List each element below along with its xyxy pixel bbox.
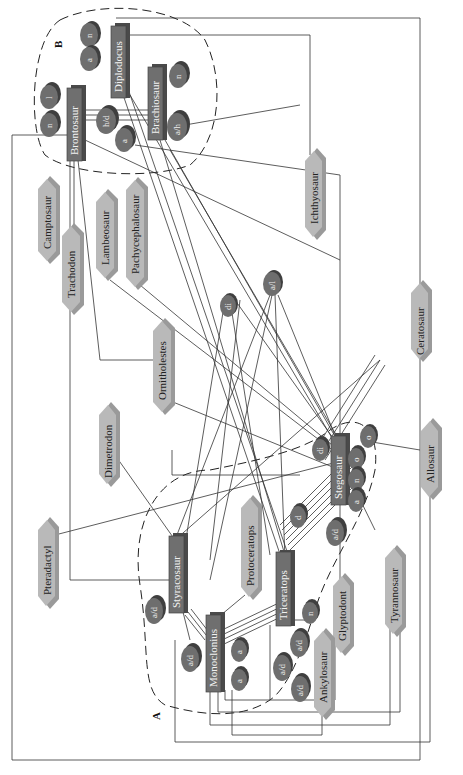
svg-text:Ankylosaur: Ankylosaur	[317, 651, 329, 703]
svg-text:a/d: a/d	[294, 640, 304, 651]
node-ankylosaur[interactable]: Ankylosaur	[314, 628, 335, 720]
svg-text:Glyptodont: Glyptodont	[336, 591, 348, 641]
svg-text:Protoceratops: Protoceratops	[244, 526, 256, 586]
dinosaur-relationship-diagram: Diplodocus Brachiosaur Brontosaur n a n …	[0, 0, 463, 775]
attr-triceratops-ad3[interactable]: a/d	[291, 673, 311, 702]
node-ceratosaur[interactable]: Ceratosaur	[411, 280, 432, 362]
svg-text:n: n	[351, 478, 361, 483]
node-monoclonius[interactable]: Monoclonius	[206, 612, 225, 692]
svg-text:a: a	[84, 58, 94, 62]
svg-text:Ornitholestes: Ornitholestes	[156, 341, 168, 400]
attr-triceratops-d[interactable]: d	[290, 503, 308, 528]
node-dimetrodon[interactable]: Dimetrodon	[99, 402, 120, 487]
svg-text:n: n	[84, 33, 94, 38]
svg-text:a: a	[119, 139, 129, 143]
node-ichthyosaur[interactable]: Ichthyosaur	[305, 148, 326, 240]
node-monoclonius-label: Monoclonius	[207, 629, 219, 687]
svg-text:a/d: a/d	[277, 664, 287, 675]
attr-stegosaur-a[interactable]: a	[348, 487, 366, 512]
svg-text:a/d: a/d	[330, 529, 340, 540]
svg-text:n: n	[44, 123, 54, 128]
group-b-label: B	[52, 40, 64, 48]
node-camptosaur[interactable]: Camptosaur	[38, 176, 60, 264]
node-trachodon[interactable]: Trachodon	[62, 223, 84, 315]
attr-diplodocus-a[interactable]: a	[80, 45, 101, 71]
node-stegosaur-label: Stegosaur	[332, 455, 344, 499]
svg-text:a/d: a/d	[295, 685, 305, 696]
node-tyrannosaur[interactable]: Tyrannosaur	[385, 545, 406, 637]
svg-text:a: a	[234, 650, 244, 654]
svg-text:o: o	[363, 435, 373, 440]
node-ornitholestes[interactable]: Ornitholestes	[153, 318, 175, 415]
svg-text:o: o	[351, 457, 361, 462]
svg-text:a: a	[351, 500, 361, 504]
svg-text:a/l: a/l	[267, 281, 277, 290]
svg-text:n: n	[173, 74, 183, 79]
attr-brachiosaur-ah[interactable]: a/h	[167, 110, 190, 141]
svg-text:Trachodon: Trachodon	[65, 250, 77, 298]
attr-styracosaur-ad[interactable]: a/d	[145, 595, 166, 624]
attr-mid-al[interactable]: a/l	[263, 270, 283, 296]
node-styracosaur[interactable]: Styracosaur	[169, 533, 188, 613]
svg-text:Ichthyosaur: Ichthyosaur	[308, 172, 320, 224]
node-triceratops[interactable]: Triceratops	[276, 550, 295, 626]
svg-text:a/d: a/d	[149, 607, 159, 618]
node-glyptodont[interactable]: Glyptodont	[333, 573, 354, 656]
attr-triceratops-ad2[interactable]: a/d	[273, 652, 293, 681]
svg-text:a/d: a/d	[185, 655, 195, 666]
node-brontosaur-label: Brontosaur	[68, 106, 80, 155]
svg-text:Camptosaur: Camptosaur	[41, 196, 53, 249]
attr-shared-a[interactable]: a	[115, 125, 136, 152]
svg-text:di: di	[223, 303, 233, 311]
svg-text:di: di	[315, 447, 325, 455]
attr-triceratops-ad1[interactable]: a/d	[290, 628, 310, 657]
node-allosaur[interactable]: Allosaur	[421, 418, 442, 500]
node-diplodocus[interactable]: Diplodocus	[111, 23, 130, 98]
node-brontosaur[interactable]: Brontosaur	[67, 85, 86, 161]
node-diplodocus-label: Diplodocus	[112, 41, 124, 92]
svg-text:Dimetrodon: Dimetrodon	[102, 424, 114, 478]
svg-text:a: a	[234, 679, 244, 683]
svg-text:a/h: a/h	[172, 124, 182, 135]
svg-text:Tyrannosaur: Tyrannosaur	[388, 568, 400, 623]
attr-brachiosaur-n[interactable]: n	[169, 61, 190, 88]
attr-triceratops-n[interactable]: n	[302, 599, 320, 624]
node-protoceratops[interactable]: Protoceratops	[241, 495, 262, 600]
node-styracosaur-label: Styracosaur	[170, 556, 182, 608]
svg-text:Lambeosaur: Lambeosaur	[99, 210, 111, 265]
node-pachycephalosaur[interactable]: Pachycephalosaur	[126, 177, 148, 290]
node-brachiosaur-label: Brachiosaur	[149, 81, 161, 134]
attr-monoclonius-a1[interactable]: a	[231, 637, 249, 662]
attr-stegosaur-ad[interactable]: a/d	[326, 517, 347, 546]
attr-mid-di[interactable]: di	[220, 293, 238, 317]
group-a-label: A	[150, 712, 162, 720]
attr-monoclonius-a2[interactable]: a	[231, 666, 249, 691]
svg-text:Allosaur: Allosaur	[424, 445, 436, 483]
attr-diplodocus-n[interactable]: n	[80, 21, 101, 47]
svg-text:Pachycephalosaur: Pachycephalosaur	[129, 194, 141, 274]
node-brachiosaur[interactable]: Brachiosaur	[148, 64, 167, 140]
node-triceratops-label: Triceratops	[277, 570, 289, 620]
svg-text:Pteradactyl: Pteradactyl	[41, 546, 53, 595]
attr-brontosaur-n[interactable]: n	[40, 110, 61, 137]
node-pteradactyl[interactable]: Pteradactyl	[38, 517, 59, 609]
attr-monoclonius-ad[interactable]: a/d	[181, 643, 202, 672]
attr-shared-hd[interactable]: h/d	[96, 105, 119, 134]
svg-text:h/d: h/d	[101, 115, 111, 127]
attr-stegosaur-o1[interactable]: o	[360, 424, 378, 448]
svg-text:d: d	[293, 515, 303, 520]
attr-stegosaur-di[interactable]: di	[312, 436, 330, 461]
node-lambeosaur[interactable]: Lambeosaur	[96, 189, 118, 281]
attr-brontosaur-l[interactable]: l	[40, 82, 61, 109]
svg-text:n: n	[305, 611, 315, 616]
node-stegosaur[interactable]: Stegosaur	[331, 433, 350, 505]
svg-text:Ceratosaur: Ceratosaur	[414, 307, 426, 355]
